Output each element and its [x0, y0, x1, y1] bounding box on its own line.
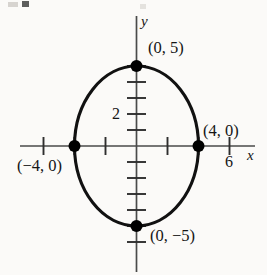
y-axis-label: y — [141, 14, 148, 29]
vertex-point-right — [193, 140, 205, 152]
x-axis-label: x — [247, 148, 254, 163]
y-tick-label-2: 2 — [112, 106, 120, 122]
vertex-point-left — [69, 140, 81, 152]
point-label-right: (4, 0) — [203, 123, 239, 140]
point-label-left: (−4, 0) — [17, 158, 62, 175]
axes-group — [20, 16, 255, 272]
x-tick-label-6: 6 — [225, 154, 233, 170]
vertex-point-top — [131, 60, 143, 72]
vertex-point-bottom — [131, 220, 143, 232]
point-label-bottom: (0, −5) — [150, 228, 195, 245]
point-label-top: (0, 5) — [148, 40, 184, 57]
